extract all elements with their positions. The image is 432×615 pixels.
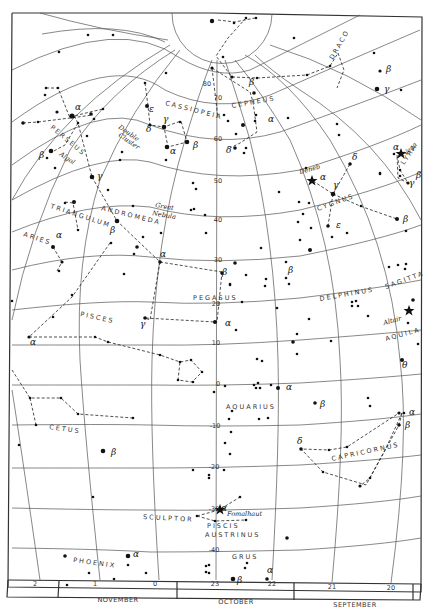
- declination-labels: 80706050403020100-10-20-30-40: [203, 80, 222, 554]
- declination-label: -40: [209, 546, 220, 554]
- greek-letter: α: [160, 249, 166, 259]
- greek-letter: γ: [333, 180, 339, 190]
- star-name-label: Altair: [381, 314, 403, 327]
- greek-letter: β: [110, 447, 116, 457]
- greek-letter: β: [109, 225, 115, 235]
- month-label: NOVEMBER: [97, 596, 138, 604]
- greek-letter: β: [404, 420, 410, 430]
- greek-letter: δ: [146, 124, 151, 134]
- ra-hour-label: 20: [387, 584, 395, 592]
- constellation-label: ARIES: [22, 230, 52, 247]
- greek-letter: α: [30, 337, 36, 347]
- ra-hour-label: 21: [328, 583, 336, 591]
- greek-letter: α: [133, 549, 139, 559]
- constellation-label: PERSEUS: [49, 123, 88, 157]
- declination-label: 10: [212, 339, 220, 347]
- greek-letter: γ: [97, 171, 103, 181]
- ra-hour-label: 23: [211, 580, 219, 588]
- greek-letter: α: [221, 503, 227, 513]
- greek-letter: β: [221, 267, 227, 277]
- greek-letter: γ: [384, 84, 390, 94]
- constellation-label: AQUILA: [384, 326, 421, 343]
- greek-letter: β: [38, 150, 44, 160]
- greek-letter: α: [409, 407, 415, 417]
- declination-label: 0: [216, 380, 220, 388]
- greek-letter: α: [225, 318, 231, 328]
- greek-letter: ε: [149, 104, 154, 114]
- greek-letter: γ: [140, 319, 146, 329]
- declination-label: -20: [209, 463, 220, 471]
- bright-stars: [215, 148, 415, 515]
- constellation-label: CASSIOPEIA: [165, 99, 224, 121]
- greek-letter: α: [320, 172, 326, 182]
- greek-letter: γ: [409, 178, 415, 188]
- greek-letter: β: [192, 140, 198, 150]
- greek-letter: α: [56, 230, 62, 240]
- month-label: SEPTEMBER: [333, 601, 376, 609]
- month-label: OCTOBER: [218, 598, 253, 606]
- greek-letter: β: [385, 64, 391, 74]
- constellation-label: AUSTRINUS: [205, 531, 260, 539]
- greek-letter: δ: [352, 152, 357, 162]
- star-name-label: Fomalhaut: [226, 510, 262, 518]
- greek-letter: γ: [163, 114, 169, 124]
- declination-label: 70: [214, 94, 222, 102]
- constellation-label: PISCES: [80, 310, 116, 325]
- constellation-label: GRUS: [232, 553, 258, 561]
- declination-label: 80: [203, 80, 211, 88]
- ra-labels: 21023222120: [33, 580, 395, 592]
- declination-label: -10: [210, 422, 221, 430]
- constellation-label: AQUARIUS: [226, 403, 276, 411]
- greek-letter: θ: [402, 360, 408, 370]
- constellation-label: DELPHINUS: [319, 286, 375, 303]
- greek-letter: δ: [297, 436, 302, 446]
- greek-letter: α: [75, 102, 81, 112]
- greek-letter: α: [170, 146, 176, 156]
- altair-star-icon: [404, 305, 415, 316]
- star-name-label: Deneb: [297, 163, 321, 176]
- star-name-label: Algol: [57, 150, 76, 167]
- greek-letter: δ: [226, 145, 231, 155]
- greek-letter-labels: αβγεδγαββαδβγαβγαγδεβαβαββαγαθαβαβδβαβαα: [30, 64, 421, 585]
- declination-label: 30: [214, 256, 222, 264]
- constellation-label: DRACO: [328, 28, 352, 61]
- constellation-label: SCULPTOR: [143, 513, 194, 524]
- star-chart: 80706050403020100-10-20-30-40 2102322212…: [0, 0, 432, 615]
- greek-letter: β: [248, 77, 254, 87]
- greek-letter: β: [287, 265, 293, 275]
- ra-hour-label: 2: [33, 580, 37, 588]
- constellation-label: PEGASUS: [193, 294, 238, 302]
- declination-label: 60: [214, 135, 222, 143]
- constellation-lines: [12, 18, 408, 521]
- declination-label: -30: [209, 505, 220, 513]
- greek-letter: ε: [336, 220, 341, 230]
- ra-hour-label: 1: [93, 580, 97, 588]
- declination-label: 50: [214, 177, 222, 185]
- ra-hour-label: 0: [153, 580, 157, 588]
- greek-letter: α: [393, 142, 399, 152]
- greek-letter: α: [267, 565, 273, 575]
- greek-letter: α: [268, 114, 274, 124]
- deneb-star-icon: [307, 175, 318, 186]
- constellation-label: PHOENIX: [73, 556, 117, 570]
- constellation-label: CETUS: [49, 423, 81, 435]
- greek-letter: β: [415, 170, 421, 180]
- greek-letter: β: [402, 214, 408, 224]
- greek-letter: β: [319, 399, 325, 409]
- greek-letter: α: [286, 382, 292, 392]
- declination-label: 40: [214, 216, 222, 224]
- greek-letter: β: [236, 575, 242, 585]
- constellation-label: PISCIS: [207, 522, 240, 530]
- ra-hour-label: 22: [268, 580, 276, 588]
